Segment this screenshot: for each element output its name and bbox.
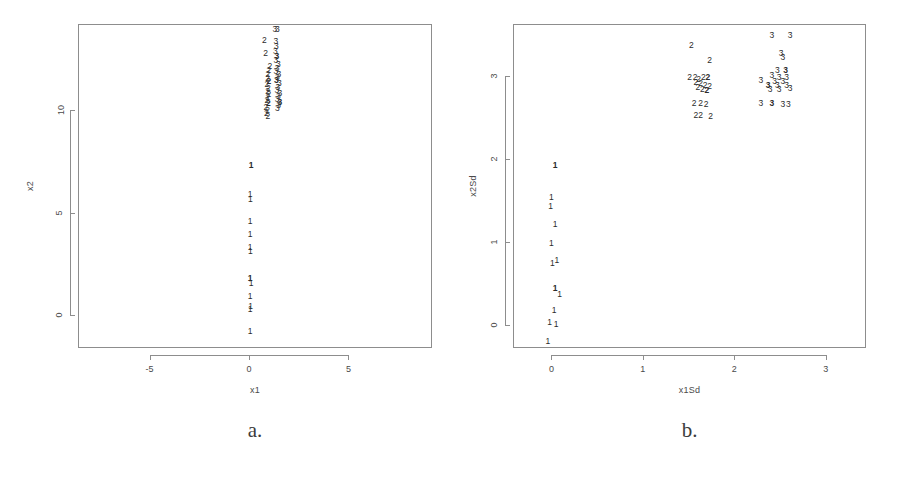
x-tick-label: -5 <box>146 364 154 374</box>
x-axis-line <box>551 355 825 356</box>
data-point-cluster-2: 2 <box>704 100 709 109</box>
data-point-cluster-1: 1 <box>549 238 554 247</box>
x-axis-title-a: x1 <box>250 385 260 395</box>
data-point-cluster-1: 1 <box>545 336 550 345</box>
data-point-cluster-1: 1 <box>248 217 253 226</box>
data-point-cluster-3: 3 <box>768 85 773 94</box>
plot-frame-a: 1111111111111222222222222222222333333333… <box>78 24 432 348</box>
y-tick-label: 0 <box>489 322 499 327</box>
data-point-cluster-1: 1 <box>554 320 559 329</box>
plot-area-a: 1111111111111222222222222222222333333333… <box>79 25 431 347</box>
y-tick-label: 5 <box>54 210 64 215</box>
x-tick-label: 1 <box>640 364 645 374</box>
x-axis-line <box>150 355 349 356</box>
y-tick-label: 0 <box>54 313 64 318</box>
data-point-cluster-2: 2 <box>708 112 713 121</box>
data-point-cluster-2: 2 <box>698 110 703 119</box>
y-tick-mark <box>505 325 510 326</box>
data-point-cluster-3: 3 <box>275 104 280 113</box>
y-tick-label: 1 <box>489 239 499 244</box>
data-point-cluster-2: 2 <box>692 99 697 108</box>
y-axis-line <box>70 110 71 315</box>
data-point-cluster-3: 3 <box>770 99 775 108</box>
data-point-cluster-1: 1 <box>548 202 553 211</box>
data-point-cluster-3: 3 <box>759 76 764 85</box>
panel-caption-a: a. <box>248 418 263 443</box>
y-axis-line <box>505 76 506 325</box>
data-point-cluster-2: 2 <box>689 41 694 50</box>
y-tick-label: 3 <box>489 73 499 78</box>
plot-frame-b: 1111111111111222222222222222222223333333… <box>513 24 866 348</box>
plot-area-b: 1111111111111222222222222222222223333333… <box>514 25 865 347</box>
data-point-cluster-2: 2 <box>262 36 267 45</box>
data-point-cluster-2: 2 <box>263 48 268 57</box>
y-axis-title-b: x2Sd <box>468 175 478 196</box>
panel-a: 1111111111111222222222222222222333333333… <box>0 0 453 478</box>
data-point-cluster-2: 2 <box>266 112 271 121</box>
data-point-cluster-3: 3 <box>759 99 764 108</box>
data-point-cluster-1: 1 <box>553 220 558 229</box>
data-point-cluster-1: 1 <box>547 318 552 327</box>
data-point-cluster-1: 1 <box>552 306 557 315</box>
x-tick-label: 0 <box>247 364 252 374</box>
x-tick-mark <box>826 355 827 360</box>
x-tick-label: 2 <box>732 364 737 374</box>
x-tick-label: 0 <box>549 364 554 374</box>
y-axis-title-a: x2 <box>25 181 35 191</box>
data-point-cluster-1: 1 <box>248 291 253 300</box>
x-tick-label: 5 <box>346 364 351 374</box>
data-point-cluster-1: 1 <box>248 195 253 204</box>
data-point-cluster-1: 1 <box>557 290 562 299</box>
panel-b: 1111111111111222222222222222222223333333… <box>453 0 906 478</box>
data-point-cluster-3: 3 <box>780 100 785 109</box>
data-point-cluster-1: 1 <box>248 230 253 239</box>
data-point-cluster-3: 3 <box>788 31 793 40</box>
y-tick-mark <box>70 315 75 316</box>
data-point-cluster-2: 2 <box>687 72 692 81</box>
panel-caption-b: b. <box>682 418 698 443</box>
data-point-cluster-2: 2 <box>705 86 710 95</box>
x-axis-title-b: x1Sd <box>679 385 700 395</box>
two-panel-scatter-figure: 1111111111111222222222222222222333333333… <box>0 0 907 478</box>
data-point-cluster-1: 1 <box>555 256 560 265</box>
data-point-cluster-1: 1 <box>248 327 253 336</box>
data-point-cluster-3: 3 <box>777 85 782 94</box>
data-point-cluster-3: 3 <box>788 84 793 93</box>
data-point-cluster-1: 1 <box>553 161 558 170</box>
data-point-cluster-1: 1 <box>248 305 253 314</box>
data-point-cluster-3: 3 <box>780 52 785 61</box>
data-point-cluster-3: 3 <box>770 31 775 40</box>
data-point-cluster-3: 3 <box>275 25 280 33</box>
y-tick-label: 2 <box>489 156 499 161</box>
data-point-cluster-1: 1 <box>248 246 253 255</box>
data-point-cluster-1: 1 <box>249 161 254 170</box>
x-tick-label: 3 <box>823 364 828 374</box>
data-point-cluster-1: 1 <box>249 279 254 288</box>
data-point-cluster-3: 3 <box>786 100 791 109</box>
data-point-cluster-2: 2 <box>707 56 712 65</box>
x-tick-mark <box>348 355 349 360</box>
y-tick-label: 10 <box>56 105 66 115</box>
data-point-cluster-2: 2 <box>698 99 703 108</box>
